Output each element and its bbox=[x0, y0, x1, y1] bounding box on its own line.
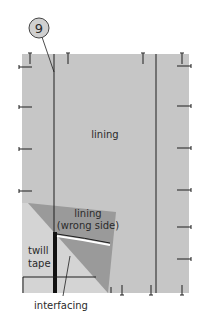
step-number: 9 bbox=[35, 21, 43, 36]
sewing-diagram: 9 lining lining (wrong side) twill tape … bbox=[0, 0, 202, 326]
twill-tape-label-line1: twill bbox=[28, 245, 48, 256]
interfacing-label: interfacing bbox=[34, 300, 88, 311]
lining-wrong-side-label-line1: lining bbox=[74, 208, 101, 219]
twill-tape-bar bbox=[53, 232, 57, 293]
lining-wrong-side-label-line2: (wrong side) bbox=[57, 220, 119, 231]
lining-label: lining bbox=[91, 129, 118, 140]
twill-tape-label-line2: tape bbox=[28, 258, 51, 269]
